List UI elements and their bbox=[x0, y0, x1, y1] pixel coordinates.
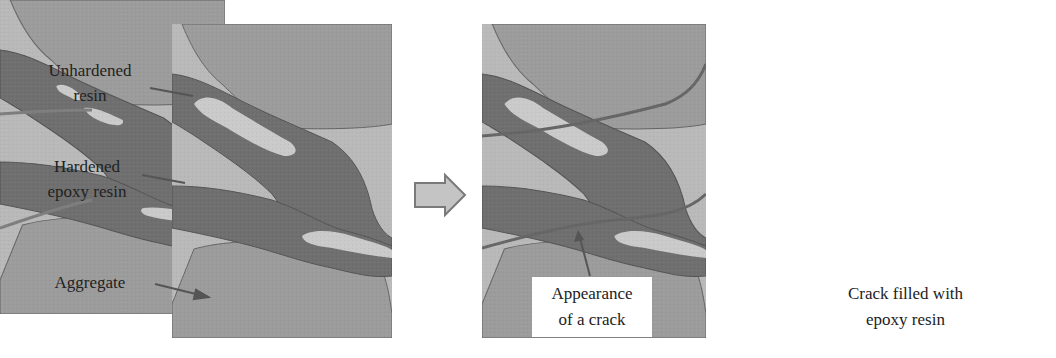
caption-line2: of a crack bbox=[532, 307, 652, 333]
caption-line1: Appearance bbox=[532, 281, 652, 307]
caption-appearance-of-crack: Appearance of a crack bbox=[532, 277, 652, 337]
transition-arrow-icon bbox=[415, 175, 465, 215]
caption-crack-filled: Crack filled with epoxy resin bbox=[820, 277, 991, 337]
caption-line2: epoxy resin bbox=[820, 307, 991, 333]
caption-line1: Crack filled with bbox=[820, 281, 991, 307]
panel-initial bbox=[172, 24, 392, 338]
